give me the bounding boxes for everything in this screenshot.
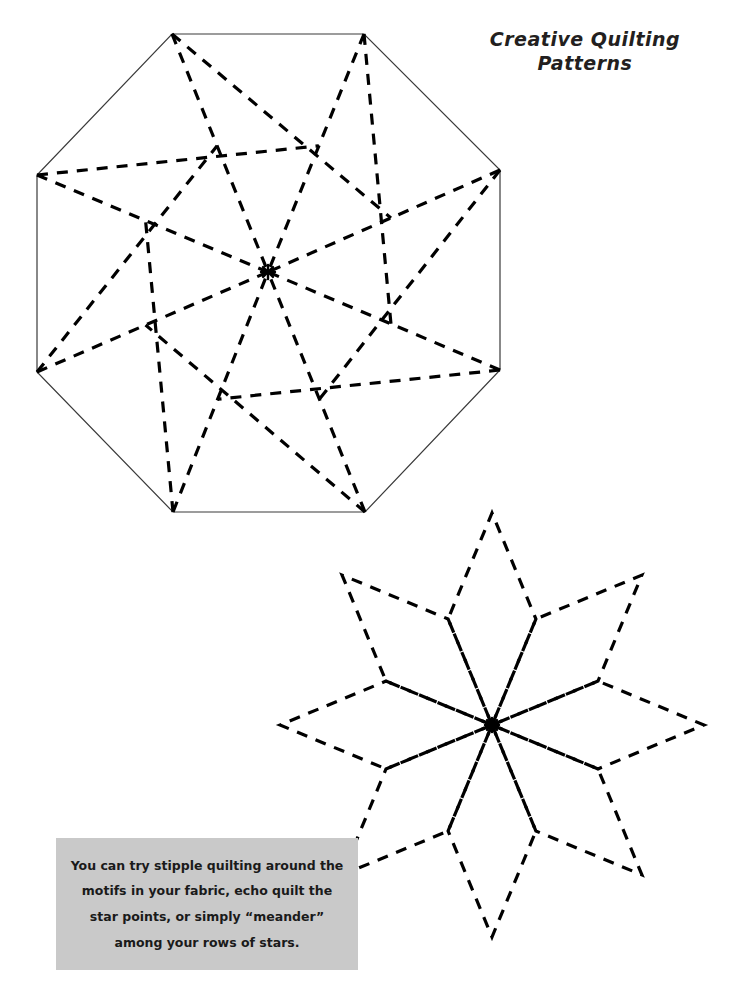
page-title-line-2: Patterns [470,52,700,76]
caption-line-3: star points, or simply “meander” [66,904,348,930]
octagon-pinwheel-chord [218,370,500,399]
star-diamond [492,575,642,725]
caption-line-4: among your rows of stars. [66,930,348,956]
octagon-pinwheel-chord [37,146,217,372]
star-diamond [280,681,492,769]
octagon-pinwheel-figure [37,34,500,512]
page-title-line-1: Creative Quilting [470,28,700,52]
star-diamond [342,725,492,875]
star-diamond [492,725,642,875]
octagon-pinwheel-chord [37,146,319,175]
caption-line-1: You can try stipple quilting around the [66,853,348,879]
octagon-pinwheel-chord [146,221,173,512]
page-title: Creative Quilting Patterns [470,28,700,76]
star-diamond [448,725,536,937]
octagon-pinwheel-chord [146,325,365,512]
octagon-pinwheel-chord [172,34,391,218]
octagon-pinwheel-chord [319,170,500,399]
caption-box: You can try stipple quilting around the … [56,838,358,970]
star-diamond [492,681,704,769]
octagon-pinwheel-chord [364,34,391,324]
caption-line-2: motifs in your fabric, echo quilt the [66,878,348,904]
star-diamond [342,575,492,725]
page-canvas: Creative Quilting Patterns You can try s… [0,0,729,994]
star-diamond [448,513,536,725]
